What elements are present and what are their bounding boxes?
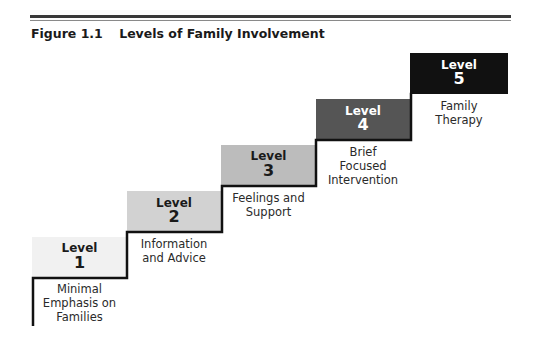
desc-line: Emphasis on xyxy=(32,297,127,311)
desc-line: Minimal xyxy=(32,283,127,297)
desc-line: Family xyxy=(410,100,508,114)
desc-line: Brief xyxy=(316,146,410,160)
desc-line: Therapy xyxy=(410,114,508,128)
desc-line: Support xyxy=(221,206,316,220)
desc-line: Information xyxy=(127,238,221,252)
desc-line: Families xyxy=(32,311,127,325)
desc-line: and Advice xyxy=(127,252,221,266)
level-1-description: Minimal Emphasis on Families xyxy=(32,283,127,324)
level-4-description: Brief Focused Intervention xyxy=(316,146,410,187)
desc-line: Feelings and xyxy=(221,192,316,206)
level-2-description: Information and Advice xyxy=(127,238,221,266)
level-3-description: Feelings and Support xyxy=(221,192,316,220)
desc-line: Focused xyxy=(316,160,410,174)
desc-line: Intervention xyxy=(316,174,410,188)
level-5-description: Family Therapy xyxy=(410,100,508,128)
